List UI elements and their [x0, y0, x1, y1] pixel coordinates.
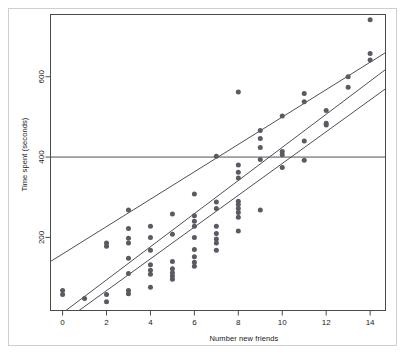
y-axis: 200400600	[38, 70, 51, 245]
data-point	[214, 241, 219, 246]
data-point	[236, 210, 241, 215]
data-point	[214, 224, 219, 229]
data-point	[214, 206, 219, 211]
data-point	[302, 91, 307, 96]
data-point	[368, 51, 373, 56]
data-point	[126, 236, 131, 241]
data-point	[258, 157, 263, 162]
data-point	[126, 241, 131, 246]
data-point	[280, 165, 285, 170]
data-point	[126, 256, 131, 261]
data-point	[126, 226, 131, 231]
data-point	[236, 215, 241, 220]
x-tick-label: 2	[104, 318, 109, 327]
data-point	[280, 114, 285, 119]
y-tick-label: 600	[38, 70, 47, 84]
figure-container: 02468101214Number new friends200400600Ti…	[0, 0, 405, 363]
data-point	[192, 213, 197, 218]
data-point	[258, 145, 263, 150]
data-point	[170, 232, 175, 237]
data-point	[346, 74, 351, 79]
data-point	[236, 175, 241, 180]
data-point	[192, 264, 197, 269]
y-tick-label: 400	[38, 150, 47, 164]
x-tick-label: 14	[366, 318, 375, 327]
data-point	[192, 247, 197, 252]
data-point	[302, 158, 307, 163]
data-point	[214, 200, 219, 205]
x-tick-label: 8	[236, 318, 241, 327]
data-point	[192, 235, 197, 240]
data-point	[236, 228, 241, 233]
x-tick-label: 0	[60, 318, 65, 327]
data-point	[148, 235, 153, 240]
data-point	[302, 99, 307, 104]
data-point	[104, 244, 109, 249]
scatter-plot: 02468101214Number new friends200400600Ti…	[0, 0, 405, 363]
data-point	[302, 139, 307, 144]
y-axis-title: Time spent (seconds)	[20, 117, 29, 191]
data-point	[60, 292, 65, 297]
x-axis: 02468101214	[60, 311, 375, 327]
data-point	[192, 224, 197, 229]
plot-background	[51, 15, 386, 311]
data-point	[148, 248, 153, 253]
data-point	[214, 248, 219, 253]
data-point	[368, 57, 373, 62]
data-point	[192, 219, 197, 224]
data-point	[148, 272, 153, 277]
data-point	[214, 231, 219, 236]
data-point	[148, 224, 153, 229]
data-point	[170, 259, 175, 264]
data-point	[82, 296, 87, 301]
data-point	[126, 271, 131, 276]
data-point	[324, 122, 329, 127]
data-point	[236, 90, 241, 95]
data-point	[214, 154, 219, 159]
data-point	[126, 291, 131, 296]
x-tick-label: 4	[148, 318, 153, 327]
data-point	[280, 152, 285, 157]
data-point	[258, 128, 263, 133]
x-axis-title: Number new friends	[210, 334, 279, 343]
data-point	[258, 208, 263, 213]
data-point	[126, 208, 131, 213]
x-tick-label: 10	[278, 318, 287, 327]
data-point	[104, 299, 109, 304]
data-point	[192, 192, 197, 197]
x-tick-label: 6	[192, 318, 197, 327]
data-point	[346, 85, 351, 90]
data-point	[170, 277, 175, 282]
data-point	[258, 136, 263, 141]
data-point	[236, 170, 241, 175]
data-point	[170, 212, 175, 217]
data-point	[148, 285, 153, 290]
data-point	[324, 108, 329, 113]
x-tick-label: 12	[322, 318, 331, 327]
data-point	[104, 292, 109, 297]
data-point	[368, 17, 373, 22]
data-point	[148, 262, 153, 267]
y-tick-label: 200	[38, 230, 47, 244]
data-point	[192, 254, 197, 259]
data-point	[236, 163, 241, 168]
